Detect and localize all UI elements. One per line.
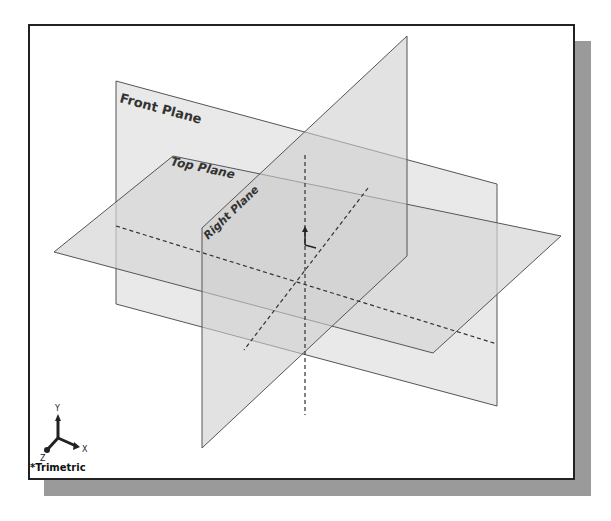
triad-x-label: X [82, 445, 88, 454]
coordinate-triad: Y X Z [40, 404, 88, 463]
view-orientation-label: *Trimetric [30, 462, 86, 473]
planes-scene[interactable]: Front Plane Top Plane Right Plane Y X Z [0, 0, 611, 521]
triad-y-label: Y [54, 404, 60, 413]
